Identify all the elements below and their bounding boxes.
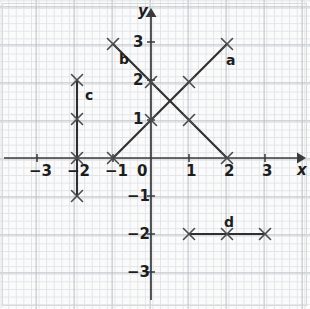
x-tick-label-neg3: −3 [29, 164, 52, 179]
y-tick-label-neg2: −2 [127, 227, 150, 242]
coordinate-plane-figure: y x 0 −3 −2 −1 1 2 3 3 2 1 −1 −2 −3 b a … [0, 0, 310, 309]
plot-drawing-layer [0, 0, 310, 309]
y-tick-label-neg1: −1 [127, 189, 150, 204]
x-tick-label-neg1: −1 [105, 164, 128, 179]
x-tick-label-1: 1 [186, 164, 196, 179]
x-tick-label-neg2: −2 [67, 164, 90, 179]
segment-label-b: b [119, 52, 129, 66]
x-tick-label-3: 3 [262, 164, 272, 179]
segment-c [72, 75, 83, 202]
x-tick-label-2: 2 [224, 164, 234, 179]
segment-label-d: d [224, 215, 234, 229]
y-axis [146, 8, 157, 300]
segment-d [184, 229, 271, 240]
y-axis-label: y [138, 4, 148, 19]
segment-label-a: a [226, 53, 235, 67]
origin-label: 0 [137, 164, 147, 179]
y-tick-label-1: 1 [133, 112, 143, 127]
x-axis-label: x [297, 163, 307, 178]
y-tick-label-neg3: −3 [127, 265, 150, 280]
segment-label-c: c [85, 88, 93, 102]
y-tick-label-2: 2 [133, 73, 143, 88]
y-tick-label-3: 3 [133, 35, 143, 50]
